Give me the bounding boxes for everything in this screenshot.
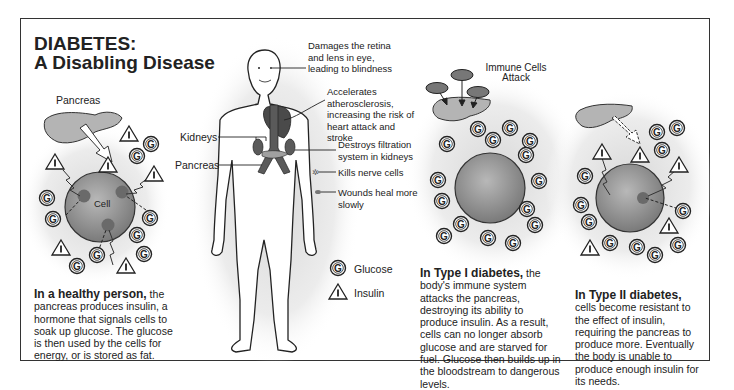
type1-caption-heading: In Type I diabetes, (420, 266, 523, 280)
pancreas-label: Pancreas (56, 94, 100, 106)
kidneys-label: Kidneys (180, 131, 217, 143)
immune-label-line-2: Attack (484, 73, 548, 83)
type2-caption-heading: In Type II diabetes, (575, 288, 681, 302)
callout-heart: Accelerates atherosclerosis, increasing … (327, 86, 419, 144)
pancreas-body-label: Pancreas (175, 159, 219, 171)
nerve-icon: ✲ (312, 168, 319, 177)
legend-glucose-label: Glucose (354, 263, 393, 275)
glucose-icon (331, 261, 346, 276)
cell-shape (455, 153, 525, 223)
immune-cell (451, 70, 473, 81)
healthy-caption-heading: In a healthy person, (34, 287, 147, 301)
kidney-left (253, 139, 263, 155)
kidney-right (285, 139, 295, 155)
callout-wounds: Wounds heal more slowly (338, 187, 438, 210)
type2-caption-text: cells become resistant to the effect of … (575, 301, 699, 387)
legend-insulin-label: Insulin (354, 287, 384, 299)
healthy-caption: In a healthy person, the pancreas produc… (34, 288, 182, 362)
type2-panel-illustration (545, 90, 715, 280)
immune-cell (467, 87, 489, 98)
type2-caption: In Type II diabetes, cells become resist… (575, 289, 703, 387)
callout-kidneys: Destroys filtration system in kidneys (338, 139, 428, 162)
type1-caption-text: the body's immune system attacks the pan… (420, 267, 561, 390)
callout-nerves: Kills nerve cells (338, 167, 428, 179)
immune-cell (426, 83, 448, 94)
cell-label: Cell (94, 198, 110, 210)
cell-shape (596, 164, 664, 232)
type1-caption: In Type I diabetes, the body's immune sy… (420, 267, 562, 390)
callout-eyes: Damages the retina and lens in eye, lead… (308, 40, 404, 75)
human-body-illustration: ✲ (190, 35, 360, 365)
immune-cells-attack-label: Immune Cells Attack (484, 63, 548, 83)
